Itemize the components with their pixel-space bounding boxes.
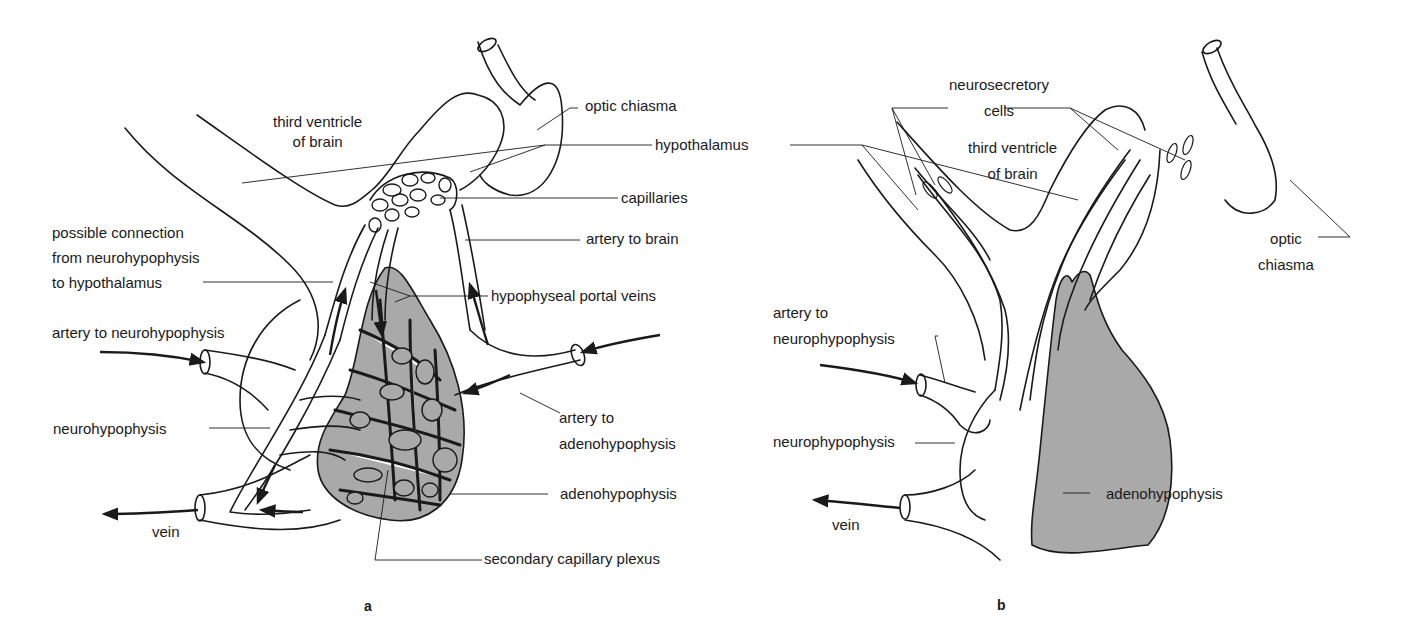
label-third-ventricle-b: third ventricle of brain <box>968 135 1057 187</box>
label-artery-to-adenohypophysis-a: artery to adenohypophysis <box>559 405 676 457</box>
label-artery-to-neurohypophysis-a: artery to neurohypophysis <box>52 323 225 343</box>
label-artery-to-brain-a: artery to brain <box>586 229 679 249</box>
label-optic-chiasma-a: optic chiasma <box>585 96 677 116</box>
panel-b-drawing <box>858 38 1276 560</box>
label-capillaries-a: capillaries <box>621 188 688 208</box>
label-possible-connection-a: possible connection from neurohypophysis… <box>52 220 200 295</box>
capillaries-a <box>369 173 451 232</box>
label-secondary-capillary-plexus-a: secondary capillary plexus <box>484 549 660 569</box>
label-third-ventricle-a: third ventricle of brain <box>273 112 362 152</box>
adenohypophysis-shape-b <box>1032 271 1172 552</box>
arrow-out-vein-a <box>105 510 198 514</box>
arrow-out-vein-b <box>815 500 900 508</box>
label-neurosecretory-cells-b: neurosecretory cells <box>949 72 1049 124</box>
label-hypothalamus-shared: hypothalamus <box>655 135 748 155</box>
label-artery-to-neurophypophysis-b: artery to neurophypophysis <box>773 300 895 352</box>
neurosecretory-cell-bodies-b <box>921 134 1196 200</box>
panel-letter-b: b <box>997 597 1006 613</box>
arrow-in-adeno-artery-a <box>583 335 660 352</box>
label-neurophypophysis-b: neurophypophysis <box>773 432 895 452</box>
label-vein-a: vein <box>152 522 180 542</box>
label-hypophyseal-portal-veins-a: hypophyseal portal veins <box>491 286 656 306</box>
label-adenohypophysis-b: adenohypophysis <box>1106 484 1223 504</box>
panel-letter-a: a <box>364 598 372 614</box>
label-adenohypophysis-a: adenohypophysis <box>560 484 677 504</box>
label-neurohypophysis-a: neurohypophysis <box>53 419 166 439</box>
diagram-artwork <box>0 0 1405 643</box>
label-optic-chiasma-b: optic chiasma <box>1258 226 1314 278</box>
arrow-in-neuro-artery-b <box>820 365 915 383</box>
arrow-in-neuro-artery-a <box>100 352 203 362</box>
label-vein-b: vein <box>832 515 860 535</box>
